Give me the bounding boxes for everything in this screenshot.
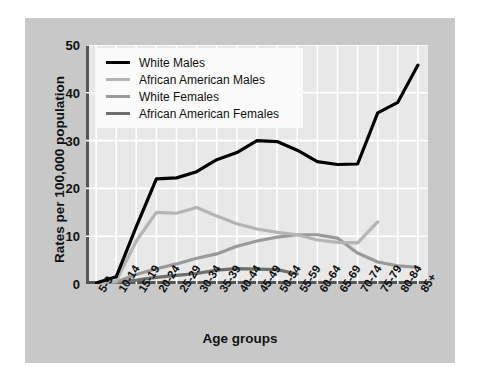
y-tick-label-10: 10	[66, 229, 80, 244]
legend-item-african-american-males: African American Males	[106, 71, 295, 88]
y-tick-label-40: 40	[66, 85, 80, 100]
y-tick-label-0: 0	[73, 277, 80, 292]
y-tick-label-30: 30	[66, 133, 80, 148]
x-axis-title: Age groups	[25, 331, 455, 346]
legend-swatch-icon	[106, 95, 130, 98]
legend-swatch-icon	[106, 61, 130, 64]
legend-swatch-icon	[106, 78, 130, 81]
legend-label: White Females	[139, 90, 219, 104]
legend-item-african-american-females: African American Females	[106, 105, 295, 122]
y-axis-tick-labels: 01020304050	[46, 45, 80, 284]
legend-label: African American Males	[139, 73, 265, 87]
chart-legend: White MalesAfrican American MalesWhite F…	[96, 48, 303, 128]
legend-item-white-females: White Females	[106, 88, 295, 105]
legend-item-white-males: White Males	[106, 54, 295, 71]
legend-label: White Males	[139, 56, 205, 70]
legend-swatch-icon	[106, 112, 130, 115]
y-tick-label-20: 20	[66, 181, 80, 196]
y-tick-label-50: 50	[66, 38, 80, 53]
legend-label: African American Females	[139, 107, 279, 121]
figure: Rates per 100,000 population 01020304050…	[0, 0, 477, 387]
